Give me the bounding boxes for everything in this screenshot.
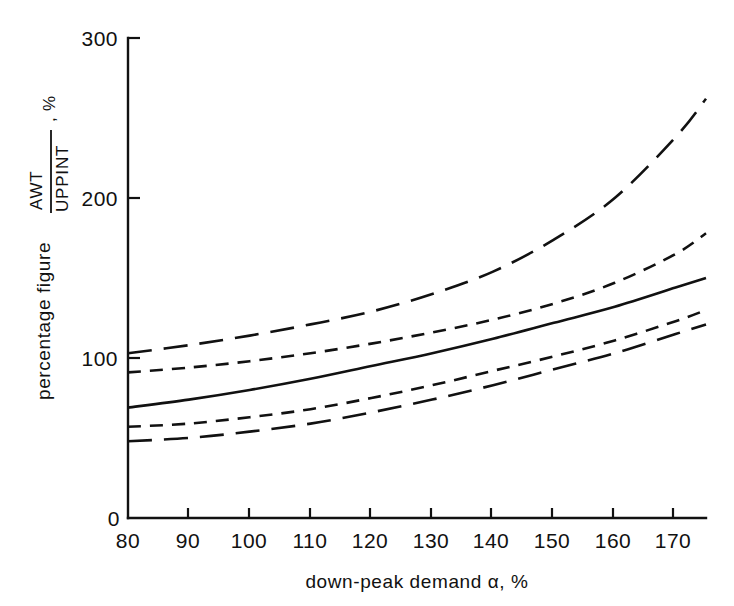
x-tick-label-110: 110: [293, 529, 328, 552]
x-tick-label-130: 130: [413, 529, 450, 552]
y-axis-title-numerator: AWT: [27, 170, 46, 210]
y-axis-title-denominator: UPPINT: [53, 145, 72, 212]
y-tick-label-300: 300: [81, 27, 118, 50]
curve-upper-inner-bound: [128, 233, 706, 372]
chart-svg: 300 200 100 0 80 90 100 110 120 130 140: [0, 0, 734, 606]
x-tick-label-150: 150: [534, 529, 571, 552]
x-tick-label-100: 100: [231, 529, 268, 552]
x-axis-tick-labels: 80 90 100 110 120 130 140 150 160 170: [116, 529, 691, 552]
y-tick-label-100: 100: [81, 347, 118, 370]
x-tick-label-90: 90: [176, 529, 200, 552]
y-axis-tick-labels: 300 200 100 0: [81, 27, 120, 530]
x-axis-ticks: [188, 508, 673, 518]
x-tick-label-140: 140: [473, 529, 510, 552]
y-tick-label-200: 200: [81, 187, 118, 210]
x-axis-title: down-peak demand α, %: [305, 571, 528, 592]
y-axis-title-unit: , %: [40, 95, 59, 122]
chart-figure: 300 200 100 0 80 90 100 110 120 130 140: [0, 0, 734, 606]
chart-curves: [128, 99, 706, 441]
y-axis-title-main: percentage figure: [33, 242, 54, 400]
curve-lower-inner-bound: [128, 310, 706, 427]
y-tick-label-0: 0: [108, 507, 120, 530]
curve-upper-outer-bound: [128, 99, 706, 353]
y-axis-ticks: [128, 38, 140, 358]
x-tick-label-170: 170: [655, 529, 692, 552]
y-axis-title-group: percentage figure AWT UPPINT , %: [27, 95, 72, 400]
x-tick-label-120: 120: [352, 529, 389, 552]
x-tick-label-160: 160: [595, 529, 632, 552]
x-tick-label-80: 80: [116, 529, 140, 552]
